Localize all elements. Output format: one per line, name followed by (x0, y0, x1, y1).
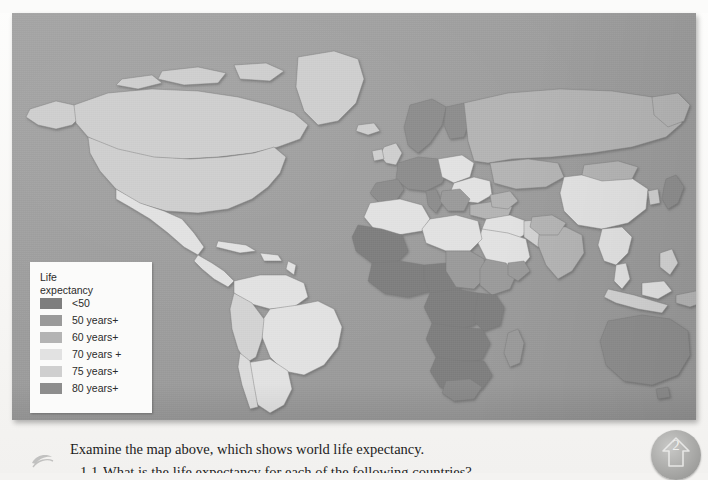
legend-swatch (40, 315, 62, 326)
page-number-badge: 2 (651, 430, 701, 480)
region-cuba (216, 241, 256, 253)
region-philippines (660, 249, 678, 275)
pencil-doodle-icon (30, 449, 56, 471)
world-map-figure: Life expectancy <50 50 years+ 60 years+ (12, 13, 696, 420)
legend-label: <50 (72, 298, 90, 309)
region-lesser-antilles (286, 261, 296, 275)
legend-item: 75 years+ (40, 366, 121, 377)
legend-rows: <50 50 years+ 60 years+ 70 years + 75 ye… (40, 298, 121, 400)
legend-item: 50 years+ (40, 315, 121, 326)
region-hispaniola (260, 253, 282, 261)
question-text: What is the life expectancy for each of … (103, 464, 472, 473)
question-number: 1.1 (80, 464, 98, 473)
region-korea (648, 189, 660, 205)
legend-item: 60 years+ (40, 332, 121, 343)
region-libya-egypt (422, 215, 482, 251)
figure-caption: Examine the map above, which shows world… (70, 441, 424, 458)
region-central-america (194, 255, 234, 287)
region-thailand-malay (614, 263, 630, 289)
legend-item: 70 years + (40, 349, 121, 360)
legend-title: Life expectancy (40, 271, 144, 296)
region-russia (464, 89, 682, 163)
region-southeast-asia (598, 227, 632, 265)
region-alaska (26, 101, 82, 129)
map-legend: Life expectancy <50 50 years+ 60 years+ (30, 262, 152, 413)
region-japan (662, 175, 684, 209)
region-borneo (642, 281, 672, 299)
legend-item: 80 years+ (40, 383, 121, 394)
legend-item: <50 (40, 298, 121, 309)
legend-label: 60 years+ (72, 332, 118, 343)
region-china (560, 173, 648, 229)
legend-swatch (40, 298, 62, 309)
region-italy (426, 189, 442, 213)
region-greenland (296, 51, 364, 125)
region-iceland (356, 123, 380, 135)
legend-label: 50 years+ (72, 315, 118, 326)
region-australia (600, 315, 690, 385)
page-number: 2 (651, 437, 701, 454)
legend-title-line2: expectancy (40, 284, 144, 297)
legend-label: 75 years+ (72, 366, 118, 377)
region-united-kingdom (380, 143, 402, 165)
region-tasmania (656, 387, 670, 399)
region-caucasus (490, 191, 518, 209)
region-ireland (372, 149, 384, 161)
region-kazakhstan (490, 159, 564, 189)
legend-swatch (40, 366, 62, 377)
legend-label: 80 years+ (72, 383, 118, 394)
region-canada-arctic-3 (116, 75, 162, 89)
legend-swatch (40, 349, 62, 360)
region-canada-arctic-1 (158, 67, 226, 85)
legend-label: 70 years + (72, 349, 121, 360)
region-kenya-tanzania (474, 293, 504, 331)
legend-swatch (40, 383, 62, 394)
region-scandinavia (404, 99, 446, 153)
region-canada-arctic-2 (234, 63, 284, 81)
region-new-guinea (676, 291, 696, 307)
region-madagascar (504, 329, 524, 367)
legend-swatch (40, 332, 62, 343)
legend-title-line1: Life (40, 271, 144, 284)
